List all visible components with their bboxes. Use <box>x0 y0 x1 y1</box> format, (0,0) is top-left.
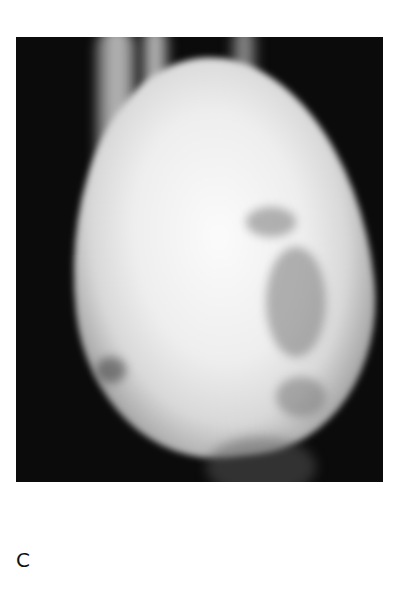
lobulation-shadow <box>246 207 296 237</box>
radiograph-image <box>16 37 383 482</box>
lobulation-shadow <box>276 377 326 417</box>
panel-label: C <box>16 548 30 572</box>
lobulation-shadow <box>96 357 126 383</box>
lobulation-shadow <box>266 247 326 357</box>
